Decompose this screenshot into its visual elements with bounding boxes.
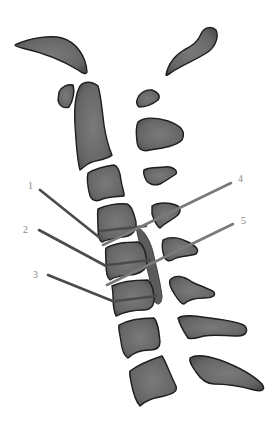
occipital-bone-left <box>15 37 87 74</box>
c3-vertebral-body <box>87 165 124 201</box>
c3-spinous-process <box>144 167 177 185</box>
axis-c2-body <box>75 82 112 170</box>
cervical-spine-diagram: 1 2 3 4 5 <box>0 0 279 428</box>
label-5: 5 <box>241 215 246 226</box>
c4-vertebral-body <box>98 204 137 242</box>
c7-spinous-process <box>178 316 247 339</box>
callout-3: 3 <box>33 269 115 302</box>
label-2: 2 <box>23 224 28 235</box>
t1-vertebral-body <box>130 356 177 406</box>
callout-2: 2 <box>23 224 106 266</box>
label-1: 1 <box>28 180 33 191</box>
atlas-anterior-arch <box>58 85 74 108</box>
c2-spinous-process <box>136 118 183 151</box>
label-4: 4 <box>238 173 243 184</box>
c7-vertebral-body <box>119 318 160 358</box>
leader-line-3 <box>48 275 115 302</box>
t1-spinous-process <box>190 356 264 391</box>
c6-spinous-process <box>170 276 215 304</box>
label-3: 3 <box>33 269 38 280</box>
occipital-bone-right <box>166 28 217 76</box>
atlas-posterior-arch <box>137 90 160 107</box>
